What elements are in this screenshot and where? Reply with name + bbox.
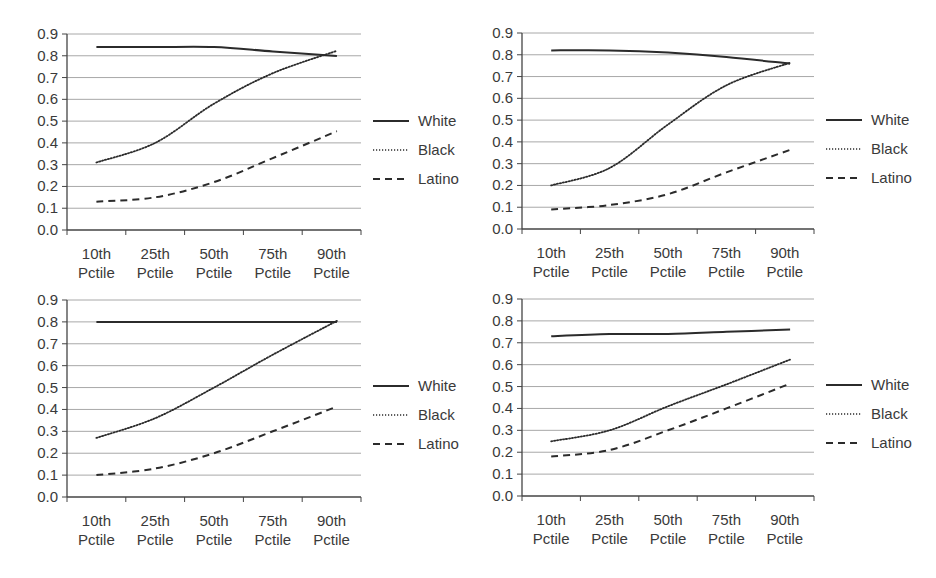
- y-tick-label: 0.5: [37, 112, 58, 129]
- y-tick-label: 0.2: [492, 443, 513, 460]
- x-tick-label: 10thPctile: [78, 245, 115, 281]
- chart-canvas: 0.00.10.20.30.40.50.60.70.80.910thPctile…: [0, 0, 936, 578]
- gridlines: [67, 34, 361, 208]
- x-tick-label: 90thPctile: [313, 245, 350, 281]
- y-tick-label: 0.5: [37, 379, 58, 396]
- x-tick-label: 75thPctile: [254, 512, 291, 548]
- legend-label: Black: [418, 141, 455, 158]
- y-tick-label: 0.2: [37, 444, 58, 461]
- y-tick-label: 0.9: [492, 24, 513, 41]
- legend: WhiteBlackLatino: [826, 376, 912, 451]
- x-tick-label: 75thPctile: [254, 245, 291, 281]
- y-tick-label: 0.4: [492, 399, 513, 416]
- y-tick-label: 0.3: [492, 155, 513, 172]
- y-tick-label: 0.8: [492, 312, 513, 329]
- y-tick-label: 0.3: [37, 156, 58, 173]
- series-line-white: [551, 330, 790, 337]
- x-tick-label: 90thPctile: [766, 511, 803, 547]
- series-line-latino: [551, 384, 790, 457]
- y-tick-label: 0.6: [492, 89, 513, 106]
- y-tick-label: 0.0: [492, 220, 513, 237]
- x-tick-label: 10thPctile: [533, 511, 570, 547]
- x-tick-label: 50thPctile: [650, 244, 687, 280]
- y-axis: 0.00.10.20.30.40.50.60.70.80.9: [492, 24, 522, 237]
- y-tick-label: 0.4: [37, 400, 58, 417]
- legend-item-latino: Latino: [826, 434, 912, 451]
- y-tick-label: 0.8: [492, 46, 513, 63]
- legend-item-black: Black: [826, 140, 908, 157]
- legend-label: White: [418, 377, 456, 394]
- chart-panel-bottom-right: 0.00.10.20.30.40.50.60.70.80.910thPctile…: [492, 290, 912, 547]
- chart-grid: 0.00.10.20.30.40.50.60.70.80.910thPctile…: [0, 0, 936, 578]
- y-axis: 0.00.10.20.30.40.50.60.70.80.9: [37, 25, 67, 238]
- legend-label: White: [871, 376, 909, 393]
- y-tick-label: 0.7: [37, 335, 58, 352]
- legend-label: White: [871, 111, 909, 128]
- legend-item-latino: Latino: [373, 170, 459, 187]
- x-tick-label: 50thPctile: [196, 245, 233, 281]
- series-line-black: [96, 51, 337, 163]
- legend-item-latino: Latino: [373, 435, 459, 452]
- x-axis: 10thPctile25thPctile50thPctile75thPctile…: [67, 497, 361, 548]
- legend-label: Black: [871, 405, 908, 422]
- y-tick-label: 0.4: [37, 134, 58, 151]
- y-tick-label: 0.9: [37, 25, 58, 42]
- legend-item-white: White: [826, 111, 909, 128]
- x-tick-label: 25thPctile: [137, 245, 174, 281]
- y-tick-label: 0.2: [37, 177, 58, 194]
- y-axis: 0.00.10.20.30.40.50.60.70.80.9: [492, 290, 522, 504]
- legend-label: Latino: [871, 169, 912, 186]
- y-tick-label: 0.1: [492, 198, 513, 215]
- legend-item-white: White: [373, 112, 456, 129]
- series-line-black: [96, 321, 337, 438]
- legend-item-white: White: [373, 377, 456, 394]
- chart-panel-bottom-left: 0.00.10.20.30.40.50.60.70.80.910thPctile…: [37, 291, 459, 548]
- y-tick-label: 0.5: [492, 378, 513, 395]
- x-tick-label: 50thPctile: [650, 511, 687, 547]
- x-tick-label: 75thPctile: [708, 244, 745, 280]
- legend-label: White: [418, 112, 456, 129]
- series-line-white: [96, 47, 337, 56]
- y-tick-label: 0.9: [492, 290, 513, 307]
- chart-panel-top-right: 0.00.10.20.30.40.50.60.70.80.910thPctile…: [492, 24, 912, 280]
- y-tick-label: 0.1: [37, 466, 58, 483]
- y-tick-label: 0.3: [37, 422, 58, 439]
- x-tick-label: 90thPctile: [766, 244, 803, 280]
- y-tick-label: 0.1: [492, 465, 513, 482]
- legend-label: Black: [418, 406, 455, 423]
- chart-panel-top-left: 0.00.10.20.30.40.50.60.70.80.910thPctile…: [37, 25, 459, 281]
- y-tick-label: 0.2: [492, 176, 513, 193]
- series-lines: [551, 330, 790, 457]
- series-line-black: [551, 63, 790, 186]
- legend-label: Black: [871, 140, 908, 157]
- legend-label: Latino: [871, 434, 912, 451]
- y-tick-label: 0.5: [492, 111, 513, 128]
- legend-item-white: White: [826, 376, 909, 393]
- x-tick-label: 25thPctile: [137, 512, 174, 548]
- series-line-white: [551, 50, 790, 63]
- series-lines: [96, 47, 337, 202]
- y-axis: 0.00.10.20.30.40.50.60.70.80.9: [37, 291, 67, 505]
- legend-label: Latino: [418, 170, 459, 187]
- y-tick-label: 0.1: [37, 199, 58, 216]
- x-tick-label: 10thPctile: [533, 244, 570, 280]
- y-tick-label: 0.7: [37, 69, 58, 86]
- y-tick-label: 0.8: [37, 313, 58, 330]
- x-axis: 10thPctile25thPctile50thPctile75thPctile…: [522, 496, 814, 547]
- series-line-latino: [96, 131, 337, 201]
- x-axis: 10thPctile25thPctile50thPctile75thPctile…: [522, 229, 814, 280]
- legend: WhiteBlackLatino: [373, 112, 459, 187]
- y-tick-label: 0.6: [492, 356, 513, 373]
- x-tick-label: 25thPctile: [591, 244, 628, 280]
- x-tick-label: 50thPctile: [196, 512, 233, 548]
- y-tick-label: 0.0: [492, 487, 513, 504]
- x-tick-label: 75thPctile: [708, 511, 745, 547]
- y-tick-label: 0.6: [37, 90, 58, 107]
- legend-item-black: Black: [373, 406, 455, 423]
- x-tick-label: 10thPctile: [78, 512, 115, 548]
- y-tick-label: 0.8: [37, 47, 58, 64]
- gridlines: [522, 299, 814, 474]
- y-tick-label: 0.0: [37, 488, 58, 505]
- legend-item-black: Black: [826, 405, 908, 422]
- y-tick-label: 0.4: [492, 133, 513, 150]
